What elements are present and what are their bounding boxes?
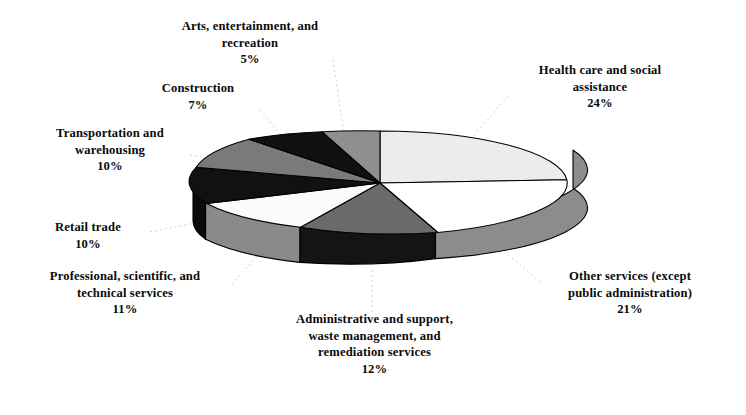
slice-label-percent: 11% [5, 301, 245, 318]
slice-label-line3: remediation services [318, 345, 431, 359]
slice-label-line2: recreation [222, 36, 278, 50]
slice-label-percent: 10% [18, 236, 158, 253]
slice-label-line2: technical services [77, 286, 173, 300]
slice-label-professional-scientific: Professional, scientific, and technical … [5, 268, 245, 318]
slice-label-percent: 7% [118, 97, 278, 114]
slice-label-other-services: Other services (except public administra… [530, 268, 730, 318]
slice-label-line2: assistance [573, 80, 628, 94]
slice-label-line2: warehousing [75, 143, 145, 157]
slice-label-percent: 21% [530, 301, 730, 318]
slice-label-construction: Construction 7% [118, 80, 278, 113]
pie-chart-page: Health care and social assistance 24% Ot… [0, 0, 746, 415]
slice-label-line1: Administrative and support, [296, 312, 453, 326]
slice-label-retail-trade: Retail trade 10% [18, 219, 158, 252]
slice-label-percent: 24% [500, 95, 700, 112]
slice-label-line1: Other services (except [569, 269, 691, 283]
slice-label-health-care: Health care and social assistance 24% [500, 62, 700, 112]
slice-label-line1: Arts, entertainment, and [182, 19, 319, 33]
slice-label-percent: 10% [30, 158, 190, 175]
slice-label-line1: Transportation and [56, 126, 164, 140]
leader-line-arts [333, 60, 345, 140]
slice-label-line1: Retail trade [55, 220, 121, 234]
slice-label-administrative-support: Administrative and support, waste manage… [262, 311, 487, 377]
slice-label-line1: Construction [162, 81, 234, 95]
slice-label-line2: waste management, and [308, 329, 440, 343]
slice-label-percent: 5% [150, 51, 350, 68]
slice-health-care [380, 131, 567, 183]
chart-canvas: Health care and social assistance 24% Ot… [0, 0, 746, 415]
slice-label-transportation-warehousing: Transportation and warehousing 10% [30, 125, 190, 175]
slice-label-line1: Professional, scientific, and [50, 269, 200, 283]
slice-label-line2: public administration) [568, 286, 692, 300]
slice-label-percent: 12% [262, 361, 487, 378]
slice-label-line1: Health care and social [539, 63, 661, 77]
slice-label-arts-entertainment-recreation: Arts, entertainment, and recreation 5% [150, 18, 350, 68]
